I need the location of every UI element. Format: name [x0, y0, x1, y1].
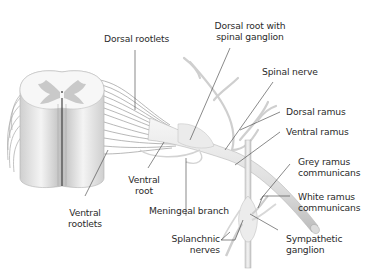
label-ventral-ramus: Ventral ramus: [286, 126, 349, 137]
label-grey-ramus-line2: communicans: [298, 167, 360, 178]
label-white-ramus-line2: communicans: [298, 202, 360, 213]
label-dorsal-root-ganglion: Dorsal root with spinal ganglion: [205, 20, 295, 42]
spinal-cord: [20, 71, 104, 188]
label-white-ramus-communicans: White ramus communicans: [298, 191, 360, 213]
label-ventral-rootlets-line1: Ventral: [60, 207, 110, 218]
label-splanchnic-nerves: Splanchnic nerves: [148, 233, 220, 255]
label-sympathetic-ganglion-line1: Sympathetic: [286, 233, 342, 244]
label-ventral-root: Ventral root: [124, 174, 164, 196]
label-ventral-rootlets: Ventral rootlets: [60, 207, 110, 229]
anatomy-diagram: Dorsal rootlets Dorsal root with spinal …: [0, 0, 373, 270]
label-white-ramus-line1: White ramus: [298, 191, 360, 202]
label-dorsal-root-ganglion-line1: Dorsal root with: [205, 20, 295, 31]
label-spinal-nerve: Spinal nerve: [262, 66, 318, 77]
label-dorsal-ramus: Dorsal ramus: [286, 106, 346, 117]
label-sympathetic-ganglion: Sympathetic ganglion: [286, 233, 342, 255]
label-ventral-root-line2: root: [124, 185, 164, 196]
label-sympathetic-ganglion-line2: ganglion: [286, 244, 342, 255]
label-dorsal-rootlets: Dorsal rootlets: [104, 33, 169, 44]
label-grey-ramus-communicans: Grey ramus communicans: [298, 156, 360, 178]
label-dorsal-root-ganglion-line2: spinal ganglion: [205, 31, 295, 42]
label-meningeal-branch: Meningeal branch: [149, 205, 229, 216]
label-ventral-root-line1: Ventral: [124, 174, 164, 185]
label-splanchnic-nerves-line1: Splanchnic: [148, 233, 220, 244]
label-grey-ramus-line1: Grey ramus: [298, 156, 360, 167]
label-ventral-rootlets-line2: rootlets: [60, 218, 110, 229]
label-splanchnic-nerves-line2: nerves: [148, 244, 220, 255]
meningeal-branch: [140, 150, 202, 163]
